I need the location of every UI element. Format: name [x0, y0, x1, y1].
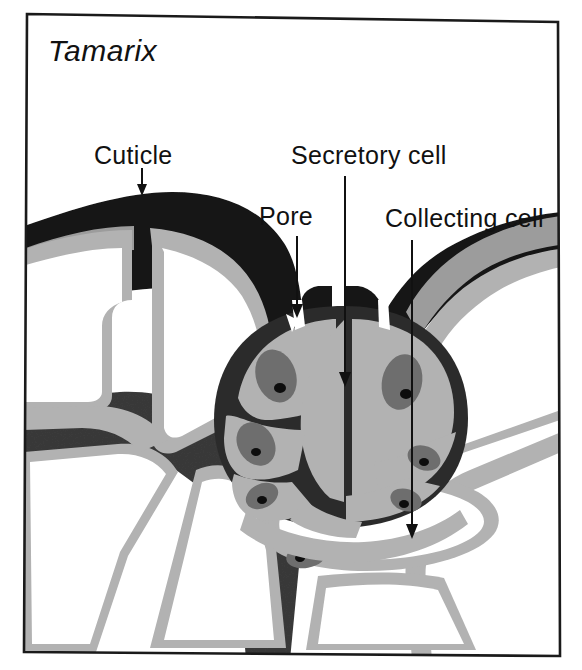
label-collecting-cell: Collecting cell [385, 206, 544, 231]
nucleolus [251, 448, 261, 456]
page-title: Tamarix [48, 36, 157, 66]
nucleolus [399, 500, 409, 508]
pore-right [378, 300, 390, 330]
nucleolus [274, 383, 286, 393]
label-pore: Pore [259, 204, 313, 229]
salt-gland-diagram [0, 0, 582, 670]
label-cuticle: Cuticle [94, 143, 173, 168]
figure-canvas: Tamarix Cuticle Pore Secretory cell Coll… [0, 0, 582, 670]
diagram-artwork [16, 10, 566, 660]
nucleolus [257, 496, 267, 504]
nucleolus [400, 389, 412, 399]
label-secretory-cell: Secretory cell [291, 143, 447, 168]
nucleolus [419, 458, 429, 466]
